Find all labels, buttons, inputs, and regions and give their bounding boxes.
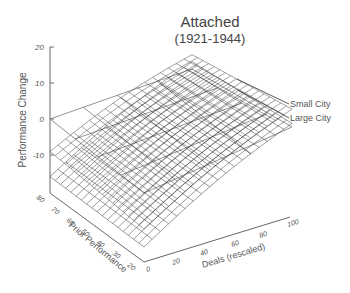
z-tick: 20 (34, 43, 44, 52)
surface-small-city (50, 55, 292, 229)
z-axis (50, 47, 54, 193)
z-tick: 0 (40, 115, 45, 124)
legend-leader-line (237, 79, 289, 104)
x-tick: 40 (199, 248, 209, 257)
x-tick: 20 (170, 257, 181, 266)
z-axis-label: Performance Change (17, 72, 28, 167)
surface-chart: 20 10 0 -10 Performance Change 80 70 60 … (0, 0, 350, 293)
x-tick: 80 (258, 230, 268, 239)
y-tick: 70 (50, 205, 61, 215)
legend-large-city: Large City (290, 113, 332, 123)
surfaces (50, 55, 292, 247)
y-tick: 80 (35, 193, 46, 203)
x-tick: 0 (145, 265, 151, 273)
z-tick: 10 (35, 79, 44, 88)
z-tick: -10 (32, 151, 44, 160)
x-tick: 100 (286, 218, 299, 228)
x-tick: 60 (230, 239, 240, 248)
legend-small-city: Small City (290, 99, 331, 109)
